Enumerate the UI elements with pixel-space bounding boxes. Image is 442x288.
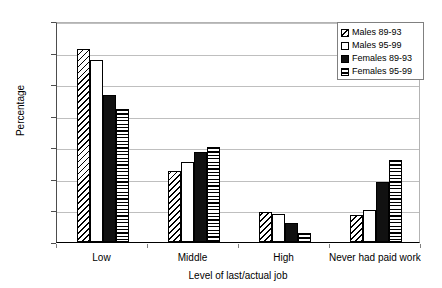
legend-swatch-icon (341, 55, 349, 63)
gridline (57, 86, 419, 87)
x-axis-tick-mark (147, 244, 148, 248)
legend-item: Females 89-93 (341, 52, 421, 65)
legend-item-label: Males 89-93 (352, 28, 402, 37)
legend-swatch-icon (341, 68, 349, 76)
x-axis-tick-mark (238, 244, 239, 248)
legend-item: Males 95-99 (341, 39, 421, 52)
bar (90, 60, 103, 242)
legend-item: Females 95-99 (341, 65, 421, 78)
x-axis-category-label: High (238, 252, 329, 263)
legend-item-label: Females 89-93 (352, 54, 412, 63)
x-axis-tick-mark (329, 244, 330, 248)
bar (181, 162, 194, 242)
bar (350, 215, 363, 242)
legend-swatch-icon (341, 29, 349, 37)
y-axis-title: Percentage (15, 71, 26, 151)
bar (168, 171, 181, 242)
legend-item-label: Females 95-99 (352, 67, 412, 76)
legend-item: Males 89-93 (341, 26, 421, 39)
legend: Males 89-93Males 95-99Females 89-93Femal… (337, 22, 424, 80)
bar (298, 233, 311, 242)
bar (77, 49, 90, 242)
bar (116, 109, 129, 242)
bar (363, 210, 376, 242)
bar (194, 152, 207, 242)
bar-chart: Percentage 010203040506070 LowMiddleHigh… (0, 0, 442, 288)
legend-item-label: Males 95-99 (352, 41, 402, 50)
x-axis-category-label: Low (56, 252, 147, 263)
x-axis-tick-mark (56, 244, 57, 248)
x-axis-category-label: Middle (147, 252, 238, 263)
bar (389, 160, 402, 242)
legend-swatch-icon (341, 42, 349, 50)
bar (272, 214, 285, 242)
bar (259, 212, 272, 242)
x-axis-title: Level of last/actual job (56, 270, 420, 281)
bar (103, 95, 116, 242)
bar (207, 147, 220, 242)
x-axis-category-label: Never had paid work (329, 252, 420, 263)
bar (376, 182, 389, 242)
x-axis-tick-mark (420, 244, 421, 248)
bar (285, 223, 298, 242)
